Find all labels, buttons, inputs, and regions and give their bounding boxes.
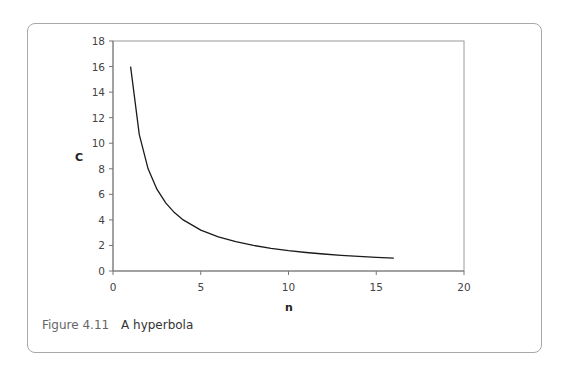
y-tick-label: 4: [98, 214, 105, 226]
figure-title: A hyperbola: [121, 318, 193, 332]
plot-area: [113, 41, 464, 271]
x-axis-ticks: 05101520: [110, 271, 471, 293]
x-tick-label: 20: [457, 281, 470, 293]
data-series: [131, 67, 394, 259]
hyperbola-curve: [131, 67, 394, 259]
y-tick-label: 6: [98, 188, 105, 200]
x-axis-title: n: [285, 301, 293, 314]
y-axis-ticks: 024681012141618: [92, 35, 113, 277]
figure-caption: Figure 4.11 A hyperbola: [42, 318, 193, 332]
plot-border: [113, 41, 464, 271]
y-tick-label: 18: [92, 35, 105, 47]
y-tick-label: 2: [98, 239, 105, 251]
figure-number: Figure 4.11: [42, 318, 109, 332]
x-tick-label: 0: [110, 281, 117, 293]
y-tick-label: 16: [92, 61, 106, 73]
y-tick-label: 0: [98, 265, 105, 277]
x-tick-label: 5: [197, 281, 204, 293]
hyperbola-chart: 024681012141618 05101520 C n: [0, 0, 565, 367]
y-tick-label: 10: [92, 137, 105, 149]
x-tick-label: 15: [370, 281, 383, 293]
y-tick-label: 8: [98, 163, 105, 175]
y-axis-title: C: [75, 151, 83, 164]
y-tick-label: 14: [92, 86, 106, 98]
y-tick-label: 12: [92, 112, 105, 124]
x-tick-label: 10: [282, 281, 295, 293]
